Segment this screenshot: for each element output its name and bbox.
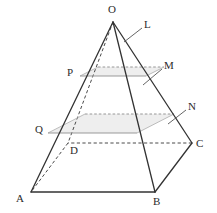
edge-O-A: [31, 22, 113, 192]
vertex-label-O: O: [108, 4, 116, 15]
leader-line-L: [124, 28, 142, 42]
vertex-label-A: A: [16, 193, 24, 204]
section-point-label-Q: Q: [35, 124, 43, 135]
leader-label-L: L: [144, 19, 151, 30]
leader-line-N: [168, 110, 186, 124]
upper-section-fill: [80, 67, 164, 76]
leader-label-N: N: [188, 101, 196, 112]
geometry-figure-canvas: O A B C D P Q L M N: [0, 0, 217, 213]
visible-edges: [31, 22, 192, 192]
edge-O-B: [113, 22, 155, 192]
leader-label-M: M: [164, 60, 174, 71]
edge-D-A: [31, 143, 68, 192]
vertex-label-D: D: [70, 145, 78, 156]
vertex-label-B: B: [153, 196, 160, 207]
edge-B-C: [155, 143, 192, 192]
vertex-label-C: C: [196, 138, 203, 149]
section-point-label-P: P: [67, 67, 73, 78]
pyramid-diagram-svg: [0, 0, 217, 213]
